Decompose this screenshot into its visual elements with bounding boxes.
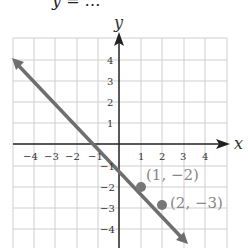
svg-text:−2: −2 [100,182,115,193]
grid [13,38,227,248]
svg-text:3: 3 [107,76,113,87]
svg-text:4: 4 [202,151,208,162]
svg-text:2: 2 [159,151,165,162]
y-tick-labels: 4 3 2 1 −1 −2 −3 −4 [100,55,115,235]
svg-text:−2: −2 [65,151,80,162]
coordinate-plane-figure: y = … y x −4 −3 −2 −1 1 2 3 4 4 3 2 1 −1… [0,0,248,248]
x-axis-label: x [234,134,243,153]
svg-text:4: 4 [107,55,113,66]
svg-text:−1: −1 [100,161,115,172]
svg-text:3: 3 [180,151,186,162]
point-1-neg2 [136,182,146,192]
svg-text:−3: −3 [44,151,59,162]
point-2-neg3 [157,200,167,210]
y-axis-label: y [113,13,124,32]
svg-text:−3: −3 [100,203,115,214]
svg-text:−4: −4 [23,151,38,162]
graph-canvas: y = … y x −4 −3 −2 −1 1 2 3 4 4 3 2 1 −1… [0,0,248,248]
svg-text:−4: −4 [100,224,115,235]
point-label-2: (2, −3) [170,194,223,212]
svg-text:2: 2 [107,97,113,108]
svg-text:1: 1 [107,118,113,129]
point-label-1: (1, −2) [146,166,199,184]
y-axis [114,32,124,248]
x-axis [13,139,230,149]
cut-off-header-text: y = … [51,0,101,10]
x-tick-labels: −4 −3 −2 −1 1 2 3 4 [23,151,208,162]
svg-text:1: 1 [138,151,144,162]
